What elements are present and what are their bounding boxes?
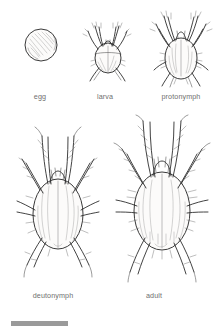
mite-life-cycle-figure: egg — [0, 0, 217, 332]
stage-protonymph — [148, 10, 214, 88]
deutonymph-mite-icon — [12, 126, 104, 282]
stage-label-egg: egg — [22, 92, 58, 101]
larva-mite-icon — [80, 16, 136, 84]
protonymph-mite-icon — [148, 10, 214, 88]
egg-sphere-icon — [20, 22, 64, 72]
adult-mite-icon — [112, 114, 212, 284]
stage-larva — [80, 16, 136, 84]
stage-label-larva: larva — [85, 92, 125, 101]
stage-deutonymph — [12, 126, 104, 282]
stage-adult — [112, 114, 212, 284]
stage-label-adult: adult — [130, 291, 178, 300]
stage-label-protonymph: protonymph — [150, 92, 212, 101]
stage-egg — [20, 22, 64, 72]
stage-label-deutonymph: deutonymph — [18, 291, 88, 300]
scale-bar — [11, 321, 68, 326]
